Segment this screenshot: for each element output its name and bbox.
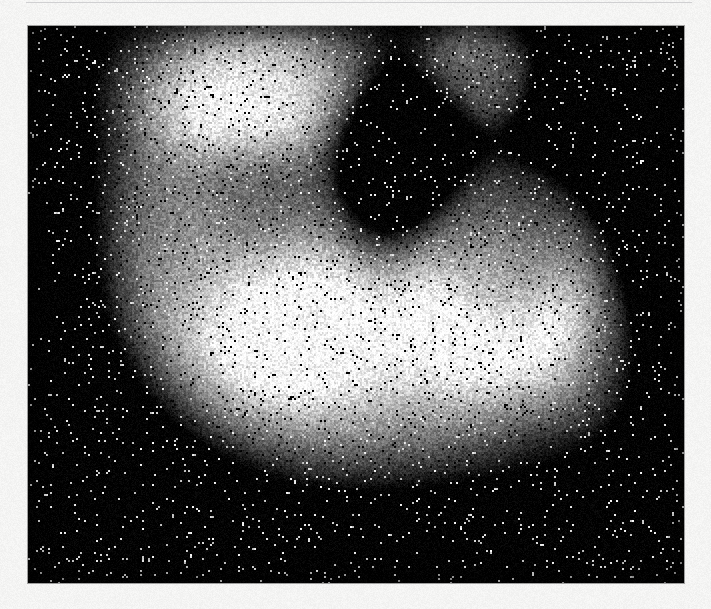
- scintigram-canvas: [28, 26, 684, 583]
- page-top-hairline-rule: [26, 2, 692, 3]
- figure-root: planar scintigram Two adjacent rounded h…: [0, 0, 711, 609]
- scintigram-image-panel: [28, 26, 684, 583]
